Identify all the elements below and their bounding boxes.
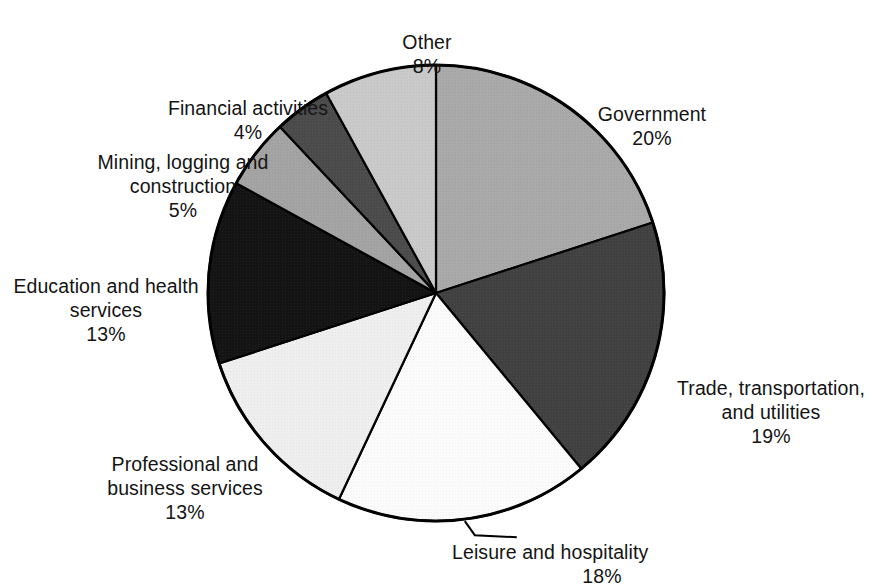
slice-label-mining-logging-construction-value: 5% <box>58 198 308 222</box>
slice-label-other-text: Other <box>402 31 451 53</box>
slice-label-financial-activities-text: Financial activities <box>168 97 328 119</box>
slice-label-education-health-services-value: 13% <box>0 322 212 346</box>
slice-label-government-value: 20% <box>562 126 742 150</box>
slice-label-professional-business-services-text: Professional and business services <box>107 453 263 499</box>
slice-label-other: Other 8% <box>352 6 502 102</box>
slice-label-professional-business-services: Professional and business services 13% <box>80 428 290 548</box>
slice-label-mining-logging-construction-text: Mining, logging and construction <box>97 151 268 197</box>
slice-label-government: Government 20% <box>562 78 742 174</box>
slice-label-other-value: 8% <box>352 54 502 78</box>
slice-label-government-text: Government <box>598 103 706 125</box>
slice-label-education-health-services: Education and health services 13% <box>0 250 212 370</box>
slice-label-mining-logging-construction: Mining, logging and construction 5% <box>58 126 308 246</box>
slice-label-leisure-hospitality-text: Leisure and hospitality <box>452 541 648 563</box>
slice-label-education-health-services-text: Education and health services <box>13 275 198 321</box>
slice-label-trade-transportation-utilities: Trade, transportation, and utilities 19% <box>666 352 876 472</box>
slice-label-leisure-hospitality: Leisure and hospitality 18% <box>452 516 752 587</box>
slice-label-professional-business-services-value: 13% <box>80 500 290 524</box>
slice-label-leisure-hospitality-value: 18% <box>452 564 752 587</box>
slice-label-trade-transportation-utilities-value: 19% <box>666 424 876 448</box>
slice-label-trade-transportation-utilities-text: Trade, transportation, and utilities <box>677 377 865 423</box>
